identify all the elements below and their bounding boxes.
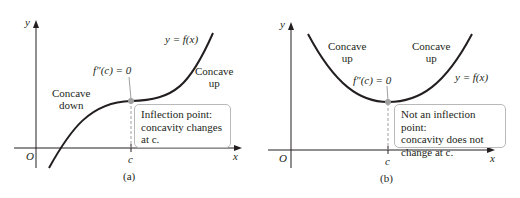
region-concave-up: Concave up — [195, 65, 233, 89]
x-axis-label: x — [233, 150, 238, 162]
region-line: Concave — [328, 40, 366, 52]
region-line: Concave — [52, 87, 90, 99]
region-line: down — [52, 99, 90, 111]
inflection-note: Inflection point: concavity changes at c… — [134, 104, 231, 148]
caption-b: (b) — [380, 172, 393, 184]
note-line: at c. — [141, 133, 224, 146]
note-line: concavity changes — [141, 121, 224, 134]
region-line: up — [195, 77, 233, 89]
panel-b-not-inflection: y O c x y = f(x) f″(c) = 0 Concave up Co… — [260, 0, 520, 198]
origin-label: O — [279, 152, 287, 164]
region-concave-up-left: Concave up — [328, 40, 366, 64]
graph-b — [260, 0, 520, 198]
region-concave-down: Concave down — [52, 87, 90, 111]
critical-point — [385, 99, 391, 105]
note-line: Inflection point: — [141, 108, 224, 121]
origin-label: O — [26, 150, 34, 162]
y-axis-label: y — [25, 16, 30, 28]
region-line: up — [412, 52, 450, 64]
graph-a — [0, 0, 260, 198]
curve-label: y = f(x) — [165, 33, 198, 45]
label-pointer — [129, 77, 131, 99]
region-line: up — [328, 52, 366, 64]
second-derivative-label: f″(c) = 0 — [353, 74, 391, 86]
y-axis-arrow-icon — [33, 20, 39, 28]
y-axis-arrow-icon — [288, 22, 294, 30]
note-line: concavity does not — [401, 133, 499, 146]
inflection-point — [128, 98, 134, 104]
note-line: Not an inflection point: — [401, 108, 499, 133]
note-line: change at c. — [401, 146, 499, 159]
label-pointer — [387, 86, 388, 101]
second-derivative-label: f″(c) = 0 — [93, 64, 131, 76]
not-inflection-note: Not an inflection point: concavity does … — [394, 104, 506, 148]
y-axis-label: y — [280, 18, 285, 30]
region-line: Concave — [195, 65, 233, 77]
c-tick-label: c — [128, 153, 133, 165]
panel-a-inflection: y O c x y = f(x) f″(c) = 0 Concave down … — [0, 0, 260, 198]
curve-label: y = f(x) — [455, 71, 488, 83]
region-concave-up-right: Concave up — [412, 40, 450, 64]
c-tick-label: c — [385, 155, 390, 167]
caption-a: (a) — [123, 170, 135, 182]
region-line: Concave — [412, 40, 450, 52]
